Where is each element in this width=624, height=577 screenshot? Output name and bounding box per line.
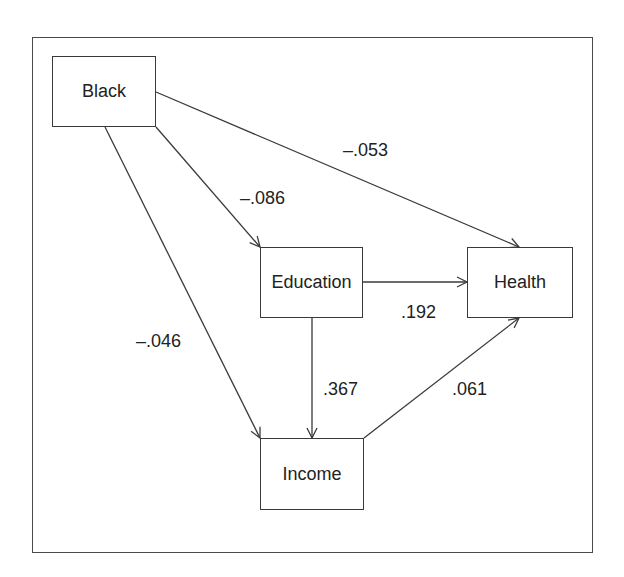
coef-education-income: .367 [323, 380, 358, 398]
coef-education-health: .192 [401, 303, 436, 321]
node-income: Income [260, 438, 364, 510]
edge-income-health [364, 318, 519, 438]
coef-black-health: –.053 [343, 141, 388, 159]
edge-black-income [105, 127, 260, 438]
node-black: Black [52, 56, 156, 127]
path-diagram: Black Education Health Income –.053 –.08… [0, 0, 624, 577]
edge-black-health [156, 92, 519, 247]
node-education: Education [260, 247, 363, 318]
node-education-label: Education [271, 272, 351, 293]
coef-income-health: .061 [452, 380, 487, 398]
node-health-label: Health [494, 272, 546, 293]
node-health: Health [467, 247, 573, 318]
coef-black-income: –.046 [136, 332, 181, 350]
edge-black-education [156, 127, 260, 247]
node-black-label: Black [82, 81, 126, 102]
coef-black-education: –.086 [240, 189, 285, 207]
node-income-label: Income [282, 464, 341, 485]
